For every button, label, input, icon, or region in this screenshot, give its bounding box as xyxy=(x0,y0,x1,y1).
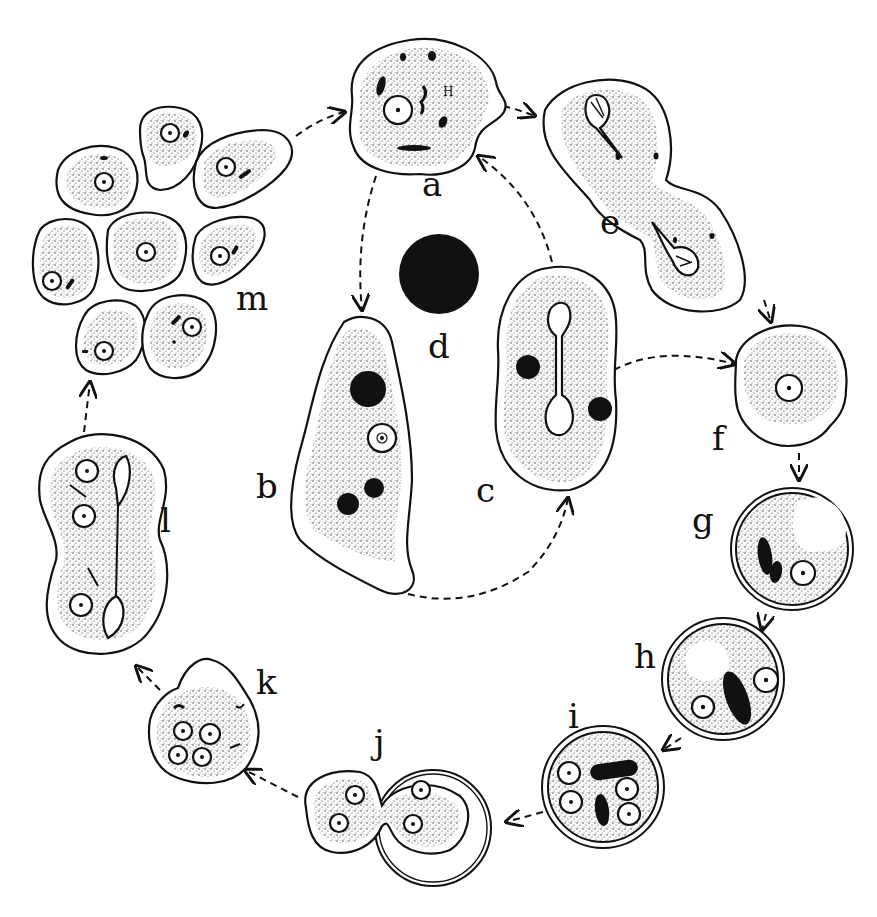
stage-i-quadrinucleate-cyst: i xyxy=(542,696,664,848)
young-amoeba xyxy=(76,301,145,375)
young-amoeba xyxy=(56,146,137,215)
stage-a-trophozoite: H a xyxy=(350,39,506,204)
arrow-c-to-a xyxy=(478,156,552,262)
label-g: g xyxy=(692,500,714,540)
label-b: b xyxy=(256,466,278,506)
svg-text:H: H xyxy=(443,85,453,99)
stage-k-metacystic-amoeba: k xyxy=(149,659,277,783)
young-amoeba xyxy=(194,130,292,208)
arrow-c-to-f xyxy=(614,356,735,370)
life-cycle-diagram: H a d b c xyxy=(0,0,877,917)
arrow-j-to-k xyxy=(245,770,298,797)
label-j: j xyxy=(370,722,385,762)
stage-l-dividing-metacystic: l xyxy=(39,434,171,654)
stage-b-amoeba: b xyxy=(256,317,414,594)
arrow-m-to-a xyxy=(296,112,345,136)
stage-m-eight-young-amoebae: m xyxy=(33,107,292,378)
young-amoeba xyxy=(107,213,186,291)
arrow-a-to-e xyxy=(503,106,535,116)
arrow-a-to-b xyxy=(360,176,376,310)
label-k: k xyxy=(256,662,277,702)
label-i: i xyxy=(568,696,579,736)
label-a: a xyxy=(422,164,442,204)
label-m: m xyxy=(236,278,268,318)
label-e: e xyxy=(600,202,620,242)
young-amoeba xyxy=(142,295,216,378)
arrow-e-to-f xyxy=(764,300,771,322)
label-h: h xyxy=(634,636,656,676)
label-f: f xyxy=(712,418,727,458)
arrow-i-to-j xyxy=(506,812,543,822)
arrow-b-to-c xyxy=(408,498,568,599)
stage-j-excystation: j xyxy=(305,722,491,886)
stage-g-uninucleate-cyst: g xyxy=(692,488,853,610)
arrow-l-to-m xyxy=(84,382,90,432)
label-c: c xyxy=(476,470,495,510)
label-l: l xyxy=(160,500,171,540)
arrow-k-to-l xyxy=(136,666,160,690)
arrow-h-to-i xyxy=(663,738,681,750)
arrow-g-to-h xyxy=(762,614,766,630)
young-amoeba xyxy=(193,217,265,285)
stage-d-dark-body: d xyxy=(399,234,479,366)
stage-h-binucleate-cyst: h xyxy=(634,618,784,740)
young-amoeba xyxy=(33,219,98,304)
label-d: d xyxy=(428,326,450,366)
stage-c-dividing-amoeba: c xyxy=(476,267,616,510)
stage-f-precyst: f xyxy=(712,325,847,458)
